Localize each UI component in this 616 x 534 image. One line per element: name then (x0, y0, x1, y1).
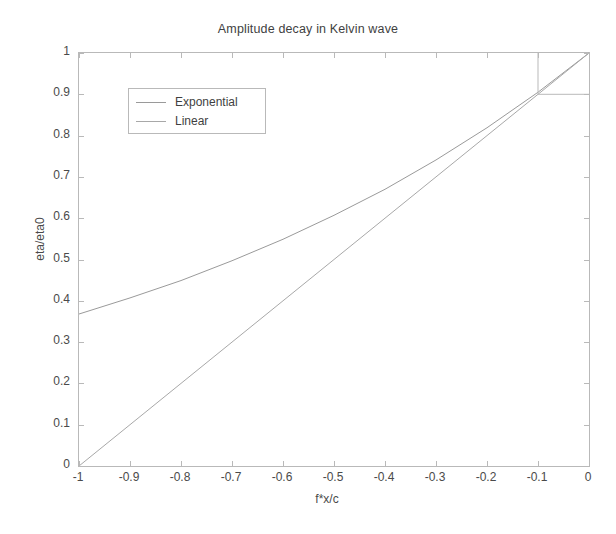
x-tick-label: -0.2 (464, 470, 508, 484)
y-tick-mark (79, 94, 84, 95)
y-tick-mark-right (584, 260, 589, 261)
y-tick-mark-right (584, 342, 589, 343)
y-tick-label: 0.8 (24, 127, 70, 141)
y-tick-mark (79, 136, 84, 137)
legend-item-linear: Linear (129, 112, 265, 131)
y-tick-mark (79, 425, 84, 426)
x-tick-label: -0.6 (260, 470, 304, 484)
y-tick-label: 0.1 (24, 416, 70, 430)
x-tick-mark-top (232, 53, 233, 58)
x-tick-label: -1 (56, 470, 100, 484)
legend-box: Exponential Linear (128, 88, 266, 134)
y-tick-label: 0.7 (24, 168, 70, 182)
x-tick-label: -0.9 (107, 470, 151, 484)
x-tick-mark (589, 461, 590, 466)
y-axis-label: eta/eta0 (33, 189, 47, 289)
x-tick-label: 0 (566, 470, 610, 484)
y-tick-mark (79, 177, 84, 178)
x-tick-mark-top (283, 53, 284, 58)
x-tick-mark-top (130, 53, 131, 58)
legend-item-exponential: Exponential (129, 93, 265, 112)
x-tick-mark-top (436, 53, 437, 58)
x-tick-mark-top (589, 53, 590, 58)
legend-label-linear: Linear (175, 115, 208, 128)
x-tick-mark-top (487, 53, 488, 58)
x-tick-mark-top (538, 53, 539, 58)
x-tick-mark (232, 461, 233, 466)
y-tick-mark (79, 383, 84, 384)
y-tick-mark-right (584, 466, 589, 467)
x-tick-mark (181, 461, 182, 466)
x-tick-mark (334, 461, 335, 466)
x-tick-label: -0.8 (158, 470, 202, 484)
x-tick-label: -0.4 (362, 470, 406, 484)
x-tick-mark-top (385, 53, 386, 58)
y-tick-label: 0.6 (24, 209, 70, 223)
legend-line-sample-linear (136, 121, 166, 123)
x-tick-mark-top (334, 53, 335, 58)
x-tick-mark (538, 461, 539, 466)
y-tick-mark-right (584, 425, 589, 426)
y-tick-mark-right (584, 94, 589, 95)
y-tick-label: 0 (24, 457, 70, 471)
y-tick-mark-right (584, 136, 589, 137)
legend-line-sample-exponential (136, 102, 166, 103)
y-tick-mark (79, 53, 84, 54)
y-tick-mark-right (584, 177, 589, 178)
y-tick-label: 0.2 (24, 374, 70, 388)
x-tick-label: -0.1 (515, 470, 559, 484)
y-tick-mark (79, 260, 84, 261)
y-tick-mark-right (584, 218, 589, 219)
x-tick-label: -0.7 (209, 470, 253, 484)
x-tick-mark (385, 461, 386, 466)
x-tick-mark (283, 461, 284, 466)
x-tick-mark-top (181, 53, 182, 58)
x-tick-label: -0.3 (413, 470, 457, 484)
y-tick-mark (79, 218, 84, 219)
y-tick-label: 0.4 (24, 292, 70, 306)
y-tick-label: 0.5 (24, 251, 70, 265)
y-tick-mark-right (584, 301, 589, 302)
y-tick-label: 0.9 (24, 85, 70, 99)
x-tick-mark (487, 461, 488, 466)
x-tick-label: -0.5 (311, 470, 355, 484)
chart-title: Amplitude decay in Kelvin wave (0, 22, 616, 36)
y-tick-mark-right (584, 53, 589, 54)
y-tick-label: 1 (24, 44, 70, 58)
legend-label-exponential: Exponential (175, 96, 238, 109)
y-tick-label: 0.3 (24, 333, 70, 347)
y-tick-mark (79, 301, 84, 302)
y-tick-mark (79, 466, 84, 467)
x-tick-mark (130, 461, 131, 466)
figure-canvas: Amplitude decay in Kelvin wave -1-0.9-0.… (0, 0, 616, 534)
x-axis-label: f*x/c (0, 492, 616, 506)
y-tick-mark (79, 342, 84, 343)
x-tick-mark (436, 461, 437, 466)
y-tick-mark-right (584, 383, 589, 384)
